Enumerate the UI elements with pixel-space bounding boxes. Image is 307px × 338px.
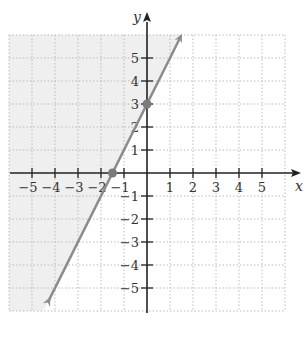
y-tick-label: 3	[131, 97, 139, 112]
x-tick-label: 5	[258, 180, 266, 195]
y-tick-label: 1	[131, 143, 139, 158]
x-tick-label: 2	[189, 180, 197, 195]
y-axis-arrow-icon	[143, 12, 151, 22]
x-axis-label: x	[295, 178, 303, 194]
x-tick-label: −3	[64, 180, 83, 195]
intercept-point	[108, 169, 117, 178]
y-tick-label: −5	[120, 281, 139, 296]
y-tick-label: −1	[120, 189, 139, 204]
y-tick-label: 4	[131, 74, 139, 89]
y-tick-label: 5	[131, 51, 139, 66]
x-tick-label: 1	[166, 180, 174, 195]
coordinate-plane: −5−4−3−2−112345−5−4−3−2−112345 x y	[0, 0, 307, 338]
y-axis-label: y	[132, 9, 142, 25]
x-tick-label: 3	[212, 180, 220, 195]
x-tick-label: −4	[41, 180, 60, 195]
y-tick-label: −2	[120, 212, 139, 227]
intercept-point	[143, 100, 152, 109]
x-tick-label: −5	[18, 180, 37, 195]
y-tick-label: −4	[120, 258, 139, 273]
x-tick-label: 4	[235, 180, 243, 195]
y-tick-label: −3	[120, 235, 139, 250]
